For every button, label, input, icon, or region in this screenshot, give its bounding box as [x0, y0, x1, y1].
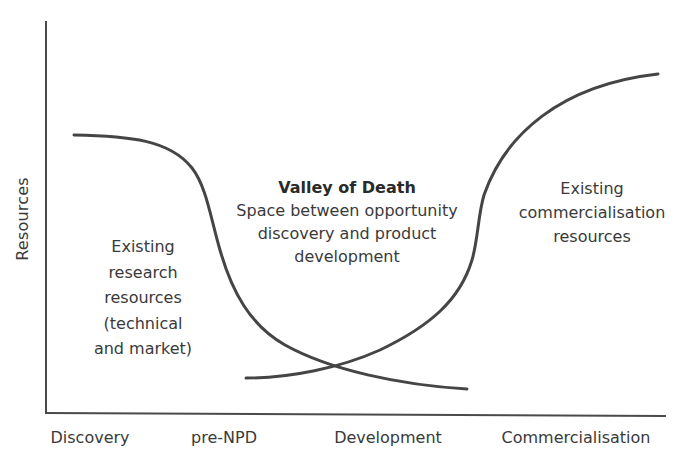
x-label-discovery: Discovery: [50, 428, 129, 447]
right-region-line: Existing: [519, 177, 666, 201]
x-label-pre-npd: pre-NPD: [191, 428, 257, 447]
right-region-label: Existing commercialisation resources: [519, 177, 666, 249]
valley-description-line: Space between opportunity: [236, 199, 457, 222]
x-axis: [45, 413, 666, 416]
valley-description-line: development: [236, 245, 457, 268]
left-region-label: Existing research resources (technical a…: [94, 234, 192, 362]
left-region-line: (technical: [94, 311, 192, 337]
valley-title: Valley of Death: [236, 176, 457, 199]
left-region-line: research: [94, 260, 192, 286]
right-region-line: commercialisation: [519, 201, 666, 225]
x-label-development: Development: [334, 428, 442, 447]
y-axis-label: Resources: [13, 177, 32, 261]
left-region-line: Existing: [94, 234, 192, 260]
right-region-line: resources: [519, 225, 666, 249]
valley-of-death-label: Valley of Death Space between opportunit…: [236, 176, 457, 268]
x-label-commercialisation: Commercialisation: [502, 428, 651, 447]
left-region-line: and market): [94, 336, 192, 362]
valley-description-line: discovery and product: [236, 222, 457, 245]
left-region-line: resources: [94, 285, 192, 311]
